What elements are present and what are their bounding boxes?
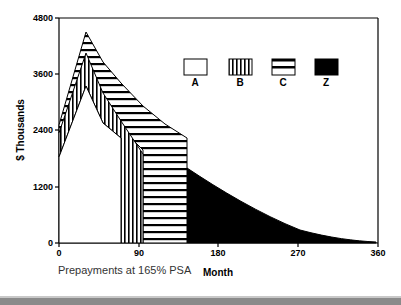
legend-label: C [279,77,286,88]
y-axis-title: $ Thousands [15,99,26,161]
legend-item-a: A [184,59,207,88]
legend-label: A [191,77,198,88]
bottom-divider-bar [0,298,401,305]
y-tick-label: 1200 [33,182,53,192]
x-tick-label: 270 [290,248,305,258]
legend-label: B [236,77,243,88]
chart-caption: Prepayments at 165% PSA [58,264,191,276]
legend: A B C Z [184,59,338,88]
legend-swatch-white [184,59,207,75]
x-tick-label: 90 [134,248,144,258]
chart: 4800 3600 2400 1200 0 $ Thousands 0 90 1… [0,0,401,305]
y-tick-label: 2400 [33,125,53,135]
y-axis: 4800 3600 2400 1200 0 $ Thousands [15,13,59,248]
x-tick-label: 0 [56,248,61,258]
series-z-area [187,168,376,243]
legend-swatch-vertical-stripes [229,59,252,75]
legend-item-z: Z [315,59,338,88]
y-tick-label: 3600 [33,69,53,79]
legend-label: Z [323,77,329,88]
legend-swatch-solid-black [315,59,338,75]
x-tick-label: 360 [370,248,385,258]
legend-item-c: C [272,59,295,88]
y-tick-label: 4800 [33,13,53,23]
x-tick-label: 180 [210,248,225,258]
y-tick-label: 0 [48,238,53,248]
x-axis-title: Month [203,267,233,278]
legend-item-b: B [229,59,252,88]
